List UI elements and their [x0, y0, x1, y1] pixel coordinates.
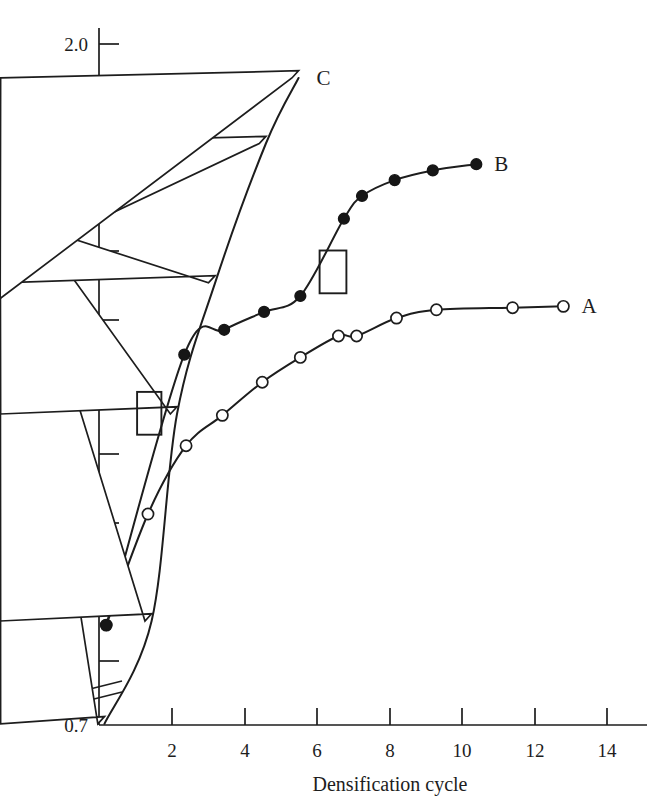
data-point-B-9: [471, 159, 482, 170]
data-point-A-2: [180, 440, 191, 451]
data-point-A-5: [295, 352, 306, 363]
data-point-A-7: [351, 330, 362, 341]
x-tick-label-12: 12: [526, 740, 545, 761]
data-point-B-7: [389, 175, 400, 186]
data-point-A-10: [507, 302, 518, 313]
data-point-B-6: [357, 191, 368, 202]
x-tick-label-4: 4: [240, 740, 250, 761]
x-tick-label-6: 6: [312, 740, 322, 761]
data-point-B-5: [338, 213, 349, 224]
density-densification-chart: 2.0 1.9 1.8 1.7 1.6 1.5 1.4 1.3 1.2 1.1 …: [0, 0, 659, 812]
curve-label-A: A: [581, 294, 597, 318]
data-point-B-1: [179, 349, 190, 360]
chart-canvas: 2.0 1.9 1.8 1.7 1.6 1.5 1.4 1.3 1.2 1.1 …: [0, 0, 659, 812]
x-tick-label-8: 8: [385, 740, 395, 761]
curve-line-A: [106, 306, 563, 625]
data-point-B-8: [427, 165, 438, 176]
y-tick-label-2.0: 2.0: [64, 34, 88, 55]
data-point-A-11: [558, 301, 569, 312]
curve-label-C: C: [317, 66, 331, 90]
x-tick-label-2: 2: [167, 740, 177, 761]
series-B: [101, 159, 482, 631]
data-point-A-8: [391, 312, 402, 323]
series-layer: [0, 71, 569, 724]
x-tick-label-10: 10: [453, 740, 472, 761]
data-point-A-1: [142, 508, 153, 519]
x-tick-labels: 2 4 6 8 10 12 14: [167, 740, 617, 761]
data-point-B-3: [259, 306, 270, 317]
data-point-B-0: [101, 620, 112, 631]
data-point-A-4: [257, 377, 268, 388]
data-point-A-3: [217, 410, 228, 421]
curve-label-B: B: [494, 152, 508, 176]
x-tick-marks: [172, 708, 607, 725]
data-point-A-9: [431, 304, 442, 315]
x-tick-label-14: 14: [598, 740, 618, 761]
data-point-B-4: [295, 291, 306, 302]
series-C: [0, 71, 298, 724]
x-axis-title: Densification cycle: [313, 773, 468, 796]
data-point-A-6: [333, 330, 344, 341]
data-point-B-2: [219, 324, 230, 335]
